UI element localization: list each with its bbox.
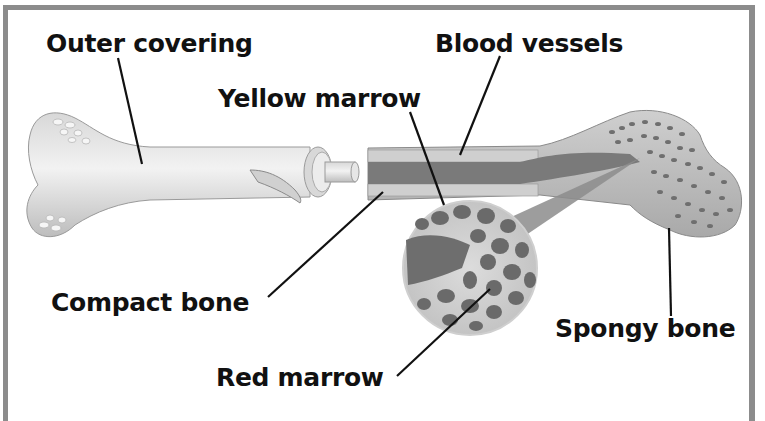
label-red-marrow: Red marrow (216, 363, 384, 392)
left-bone-segment (27, 113, 359, 237)
label-outer-covering: Outer covering (46, 29, 253, 58)
label-yellow-marrow: Yellow marrow (218, 84, 421, 113)
label-compact-bone: Compact bone (51, 288, 249, 317)
label-spongy-bone: Spongy bone (555, 314, 735, 343)
leader-spongy-bone (669, 228, 671, 316)
magnified-lens (403, 201, 537, 335)
leader-compact-bone (268, 192, 383, 297)
label-blood-vessels: Blood vessels (435, 29, 623, 58)
leader-blood-vessels (460, 56, 500, 155)
bone-illustration (0, 0, 765, 421)
